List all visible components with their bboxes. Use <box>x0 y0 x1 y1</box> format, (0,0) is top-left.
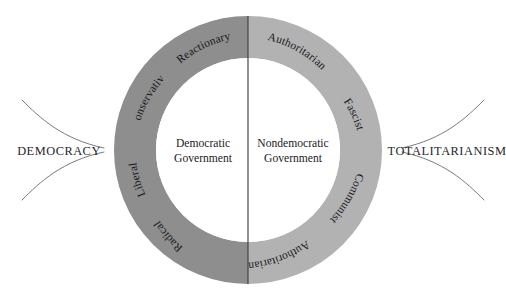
center-label-democratic-line2: Government <box>174 152 233 165</box>
diagram-canvas: Reactionary Conservative Liberal Radical… <box>0 0 506 299</box>
center-label-nondemocratic-line1: Nondemocratic <box>257 137 328 150</box>
pole-label-democracy: DEMOCRACY <box>17 144 101 158</box>
political-spectrum-diagram: Reactionary Conservative Liberal Radical… <box>0 0 506 299</box>
pole-label-totalitarianism: TOTALITARIANISM <box>388 144 506 158</box>
center-label-democratic-line1: Democratic <box>176 137 230 150</box>
center-label-nondemocratic-line2: Government <box>264 152 323 165</box>
